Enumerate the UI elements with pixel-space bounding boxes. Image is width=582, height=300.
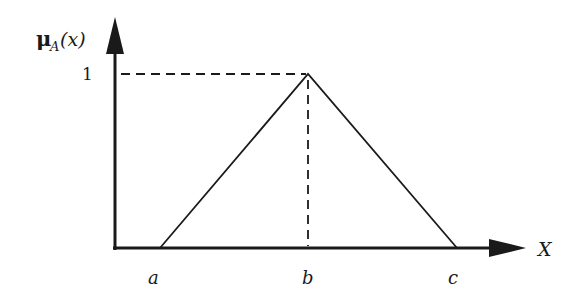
point-label-b: b: [302, 267, 314, 288]
x-axis-label: X: [536, 238, 553, 260]
membership-diagram: μ A (x) 1 X a b c: [0, 0, 582, 300]
point-label-c: c: [448, 267, 458, 288]
y-axis-arrowhead-icon: [106, 17, 124, 54]
point-label-a: a: [148, 267, 159, 288]
y-axis-label-argument: (x): [60, 28, 86, 50]
x-axis-arrowhead-icon: [489, 239, 526, 257]
y-axis-label-subscript: A: [49, 39, 59, 54]
y-tick-label-1: 1: [82, 64, 93, 84]
